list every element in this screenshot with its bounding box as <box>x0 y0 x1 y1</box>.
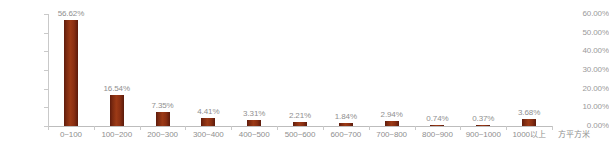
y-tick-mark <box>44 89 48 90</box>
y-tick-label: 60.00% <box>563 10 609 18</box>
y-tick-mark <box>44 70 48 71</box>
y-tick-mark <box>44 33 48 34</box>
x-tick-label: 1000以上 <box>506 130 552 139</box>
bar[interactable] <box>385 121 399 126</box>
bar[interactable] <box>430 125 444 127</box>
y-tick-mark <box>44 51 48 52</box>
x-tick-label: 200~300 <box>140 130 186 139</box>
bar-value-label: 4.41% <box>185 107 231 116</box>
y-tick-label: 20.00% <box>563 85 609 93</box>
y-tick-label: 0.00% <box>563 122 609 130</box>
bar[interactable] <box>339 123 353 126</box>
y-tick-label: 50.00% <box>563 29 609 37</box>
x-tick-label: 800~900 <box>415 130 461 139</box>
x-tick-label: 900~1000 <box>460 130 506 139</box>
bar-value-label: 1.84% <box>323 112 369 121</box>
bar[interactable] <box>201 118 215 126</box>
bar[interactable] <box>156 112 170 126</box>
bar-value-label: 3.68% <box>506 108 552 117</box>
x-tick-mark <box>552 126 553 130</box>
x-tick-label: 100~200 <box>94 130 140 139</box>
y-axis-line <box>48 14 49 126</box>
x-tick-label: 400~500 <box>231 130 277 139</box>
bar[interactable] <box>476 125 490 127</box>
y-tick-label: 10.00% <box>563 103 609 111</box>
bar-value-label: 2.94% <box>369 110 415 119</box>
x-axis-line <box>48 126 552 127</box>
bar[interactable] <box>110 95 124 126</box>
bar-value-label: 2.21% <box>277 111 323 120</box>
bar-value-label: 7.35% <box>140 101 186 110</box>
x-tick-label: 300~400 <box>185 130 231 139</box>
bar[interactable] <box>293 122 307 126</box>
x-axis-unit-label: 方平方米 <box>558 130 590 139</box>
bar-value-label: 0.74% <box>415 114 461 123</box>
x-tick-label: 500~600 <box>277 130 323 139</box>
y-tick-label: 40.00% <box>563 47 609 55</box>
bar-value-label: 56.62% <box>48 9 94 18</box>
x-tick-label: 600~700 <box>323 130 369 139</box>
y-tick-label: 30.00% <box>563 66 609 74</box>
bar-value-label: 16.54% <box>94 84 140 93</box>
bar[interactable] <box>247 120 261 126</box>
x-tick-label: 0~100 <box>48 130 94 139</box>
bar-chart: 0.00%10.00%20.00%30.00%40.00%50.00%60.00… <box>0 0 609 148</box>
x-tick-label: 700~800 <box>369 130 415 139</box>
bar-value-label: 0.37% <box>460 114 506 123</box>
bar-value-label: 3.31% <box>231 109 277 118</box>
y-tick-mark <box>44 107 48 108</box>
bar[interactable] <box>522 119 536 126</box>
bar[interactable] <box>64 20 78 126</box>
